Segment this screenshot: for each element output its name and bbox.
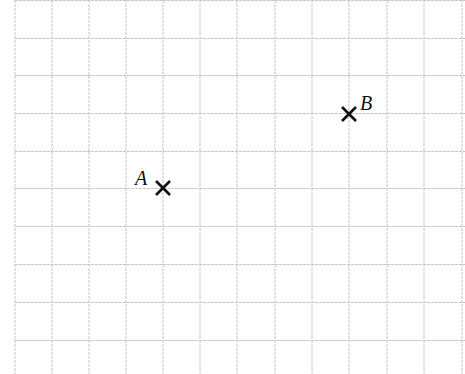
grid-lines: [15, 0, 465, 374]
point-label-b: B: [360, 93, 372, 113]
point-label-a: A: [135, 168, 147, 188]
grid-diagram: [0, 0, 465, 374]
